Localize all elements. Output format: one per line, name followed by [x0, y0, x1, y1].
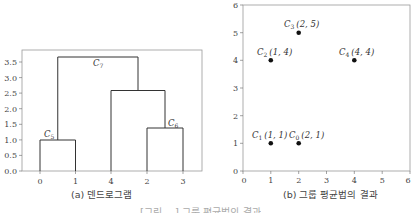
y-tick: 1.5 [4, 120, 17, 129]
dendrogram-links [40, 57, 183, 171]
point-label-c2: C2(1, 4) [257, 47, 292, 58]
y-tick: 3 [233, 84, 238, 93]
x-tick: 1 [268, 176, 273, 185]
x-tick: 6 [405, 176, 410, 185]
y-tick: 1 [233, 139, 238, 148]
x-tick: 1 [73, 177, 78, 186]
y-tick: 2.5 [4, 89, 17, 98]
point-label-c1: C1(1, 1) [252, 130, 287, 141]
y-tick: 0.0 [4, 167, 17, 176]
caption-dendrogram: (a) 덴드로그램 [71, 187, 132, 201]
x-tick: 4 [352, 176, 357, 185]
link-c7 [58, 57, 138, 140]
x-tick: 0 [241, 176, 246, 185]
scatter-y-axis: 0 1 2 3 4 5 6 [233, 1, 243, 176]
dendrogram-x-axis: 0 1 4 2 3 [37, 171, 185, 186]
dendrogram-frame [22, 50, 202, 171]
point-c0 [296, 141, 301, 146]
point-label-c4: C4(4, 4) [339, 47, 374, 58]
y-tick: 0 [233, 167, 238, 176]
point-c4 [352, 58, 357, 63]
y-tick: 6 [233, 1, 238, 10]
x-tick: 2 [144, 177, 149, 186]
link-c6 [147, 128, 183, 171]
x-tick: 2 [296, 176, 301, 185]
scatter-x-axis: 0 1 2 3 4 5 6 [241, 171, 410, 185]
link-4-c6 [111, 91, 165, 172]
x-tick: 3 [180, 177, 185, 186]
point-c1 [269, 141, 274, 146]
x-tick: 3 [324, 176, 329, 185]
x-tick: 0 [37, 177, 42, 186]
figure-caption-cropped: [그림 …] 그룹 평균법의 결과 [140, 206, 261, 213]
dendrogram-chart: 0.0 0.5 1.0 1.5 2.0 2.5 3.0 3.5 0 1 4 2 … [4, 50, 202, 186]
point-label-c0: C0(2, 1) [289, 130, 324, 141]
y-tick: 5 [233, 29, 238, 38]
y-tick: 0.5 [4, 151, 17, 160]
y-tick: 1.0 [4, 136, 17, 145]
y-tick: 2 [233, 112, 238, 121]
label-c7: C7 [93, 58, 104, 69]
y-tick: 3.0 [4, 74, 17, 83]
caption-scatter: (b) 그룹 평균법의 결과 [283, 187, 378, 201]
y-tick: 2.0 [4, 105, 17, 114]
scatter-frame [243, 5, 410, 171]
label-c5: C5 [44, 129, 55, 140]
label-c6: C6 [168, 118, 179, 129]
link-c5 [40, 140, 76, 171]
y-tick: 4 [233, 56, 238, 65]
x-tick: 4 [108, 177, 113, 186]
dendrogram-y-axis: 0.0 0.5 1.0 1.5 2.0 2.5 3.0 3.5 [4, 58, 22, 176]
point-c2 [269, 58, 274, 63]
figure: 0.0 0.5 1.0 1.5 2.0 2.5 3.0 3.5 0 1 4 2 … [0, 0, 413, 213]
point-c3 [296, 30, 301, 35]
scatter-chart: 0 1 2 3 4 5 6 0 1 2 3 4 5 6 [233, 1, 411, 185]
point-label-c3: C3(2, 5) [284, 19, 319, 30]
y-tick: 3.5 [4, 58, 17, 67]
x-tick: 5 [380, 176, 385, 185]
